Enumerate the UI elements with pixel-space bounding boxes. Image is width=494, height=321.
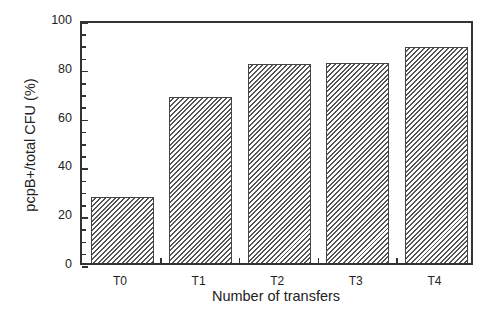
y-major-tick	[82, 71, 88, 73]
y-minor-tick	[82, 95, 86, 97]
y-minor-tick	[82, 107, 86, 109]
x-tick	[318, 258, 320, 263]
bar-t4	[405, 47, 468, 263]
y-major-tick	[82, 217, 88, 219]
y-minor-tick	[82, 59, 86, 61]
y-minor-tick	[82, 242, 86, 244]
plot-area	[80, 21, 473, 265]
y-minor-tick	[82, 46, 86, 48]
y-major-tick	[82, 22, 88, 24]
y-minor-tick	[82, 34, 86, 36]
bar-t3	[326, 63, 389, 263]
y-major-tick	[82, 120, 88, 122]
y-tick-label: 60	[42, 111, 72, 125]
y-minor-tick	[82, 132, 86, 134]
x-tick-label: T0	[100, 274, 140, 288]
y-tick-label: 40	[42, 159, 72, 173]
x-tick	[396, 258, 398, 263]
y-tick-label: 0	[42, 257, 72, 271]
x-tick-label: T4	[414, 274, 454, 288]
y-minor-tick	[82, 156, 86, 158]
bar-t2	[248, 64, 311, 263]
x-tick-label: T1	[179, 274, 219, 288]
x-axis-label: Number of transfers	[212, 288, 340, 304]
x-tick-label: T2	[257, 274, 297, 288]
y-major-tick	[82, 168, 88, 170]
y-axis-label: pcpB+/total CFU (%)	[22, 78, 38, 211]
y-tick-label: 80	[42, 62, 72, 76]
y-minor-tick	[82, 181, 86, 183]
x-tick	[239, 258, 241, 263]
x-tick-label: T3	[336, 274, 376, 288]
y-minor-tick	[82, 254, 86, 256]
y-minor-tick	[82, 205, 86, 207]
y-minor-tick	[82, 229, 86, 231]
y-major-tick	[82, 266, 88, 268]
y-minor-tick	[82, 144, 86, 146]
y-minor-tick	[82, 193, 86, 195]
y-minor-tick	[82, 83, 86, 85]
x-tick	[160, 258, 162, 263]
y-tick-label: 20	[42, 208, 72, 222]
y-tick-label: 100	[42, 13, 72, 27]
bar-t1	[169, 97, 232, 263]
bar-t0	[91, 197, 154, 263]
